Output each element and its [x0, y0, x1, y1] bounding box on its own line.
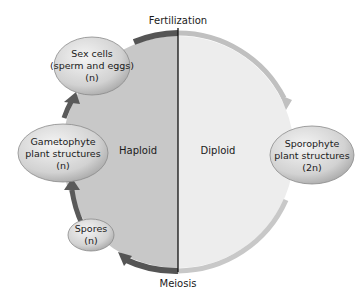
node-sporophyte: Sporophyte plant structures (2n)	[270, 126, 354, 184]
svg-text:(sperm and eggs): (sperm and eggs)	[50, 60, 134, 71]
node-spores: Spores (n)	[68, 219, 114, 251]
node-gametophyte: Gametophyte plant structures (n)	[18, 124, 108, 182]
svg-text:(2n): (2n)	[302, 162, 321, 173]
arrowhead-sexcells	[64, 92, 80, 104]
diploid-label: Diploid	[201, 145, 236, 156]
svg-text:plant structures: plant structures	[274, 150, 349, 161]
svg-text:(n): (n)	[84, 235, 97, 246]
svg-text:Gametophyte: Gametophyte	[30, 136, 95, 147]
fertilization-label: Fertilization	[149, 15, 207, 26]
svg-text:plant structures: plant structures	[25, 148, 100, 159]
life-cycle-diagram: Fertilization Meiosis Haploid Diploid Se…	[0, 0, 356, 294]
meiosis-label: Meiosis	[160, 278, 197, 289]
svg-text:(n): (n)	[85, 72, 98, 83]
svg-text:(n): (n)	[56, 160, 69, 171]
svg-text:Sex cells: Sex cells	[71, 48, 113, 59]
svg-text:Sporophyte: Sporophyte	[285, 138, 340, 149]
haploid-label: Haploid	[119, 145, 157, 156]
svg-text:Spores: Spores	[75, 223, 107, 234]
